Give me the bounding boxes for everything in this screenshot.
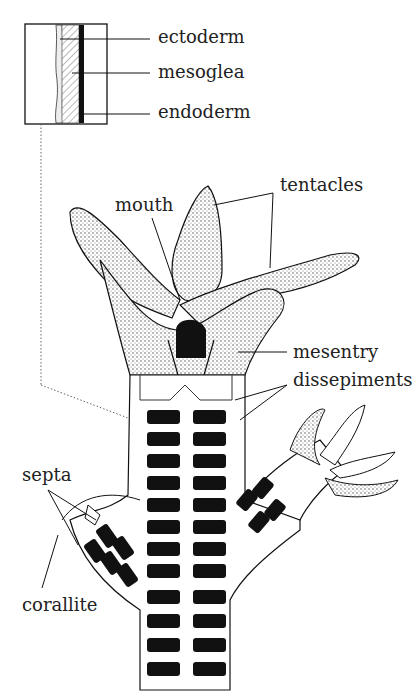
label-corallite: corallite: [22, 596, 97, 614]
label-ectoderm: ectoderm: [158, 28, 245, 46]
label-tentacles: tentacles: [280, 176, 363, 194]
label-mouth: mouth: [115, 196, 173, 214]
label-dissepiments: dissepiments: [293, 371, 412, 389]
right-bud-polyp: [235, 405, 398, 534]
label-mesentry: mesentry: [293, 343, 378, 361]
label-septa: septa: [22, 466, 71, 484]
coral-anatomy-diagram: ectoderm mesoglea endoderm mouth tentacl…: [0, 0, 413, 697]
label-mesoglea: mesoglea: [158, 63, 244, 81]
label-endoderm: endoderm: [158, 103, 250, 121]
